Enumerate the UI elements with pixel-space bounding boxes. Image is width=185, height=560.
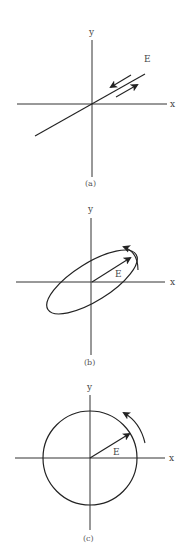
panel-caption: (c) — [83, 534, 94, 543]
polarization-line — [35, 74, 145, 136]
panel-caption: (b) — [84, 358, 95, 367]
arrow-backward-icon — [111, 75, 131, 87]
vector-label: E — [113, 447, 120, 457]
arrow-forward-icon — [116, 85, 137, 97]
y-axis-label: y — [87, 204, 94, 214]
x-axis-label: x — [169, 453, 174, 463]
panel-caption: (a) — [85, 179, 96, 188]
e-vector-arrow-icon — [90, 434, 129, 458]
y-axis-label: y — [86, 382, 93, 392]
vector-label: E — [144, 54, 151, 64]
y-axis-label: y — [88, 27, 95, 37]
panel-a-linear: y x E (a) — [17, 27, 175, 188]
panel-c-circular: y x E (c) — [15, 382, 174, 543]
rotation-arrow-icon — [124, 413, 145, 443]
panel-b-elliptical: y x E (b) — [16, 204, 175, 367]
x-axis-label: x — [170, 99, 175, 109]
x-axis-label: x — [170, 277, 175, 287]
polarization-diagram: y x E (a) y x E (b) y x E (c) — [0, 0, 185, 560]
e-vector-arrow-icon — [92, 258, 130, 282]
vector-label: E — [115, 269, 122, 279]
